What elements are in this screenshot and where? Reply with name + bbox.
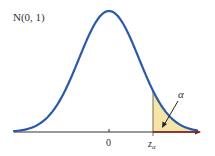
z-subscript: α [152, 143, 156, 151]
tick-label-zero: 0 [106, 137, 111, 148]
alpha-tail-shade [153, 91, 197, 132]
alpha-label: α [178, 88, 184, 100]
normal-curve [14, 11, 197, 131]
normal-distribution-chart: N(0, 1) 0 zα α [0, 0, 215, 156]
chart-title: N(0, 1) [13, 11, 45, 24]
tick-label-z: zα [147, 138, 156, 151]
